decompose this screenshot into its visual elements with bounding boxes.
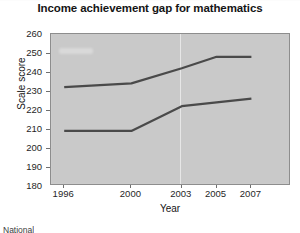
y-tick-label: 200 — [26, 143, 42, 153]
plot-area — [50, 33, 290, 185]
x-tick-mark — [250, 185, 251, 188]
x-tick-label: 2003 — [170, 188, 191, 199]
footnote-text: National — [3, 225, 34, 233]
series-lines — [51, 34, 290, 185]
chart-title: Income achievement gap for mathematics — [0, 2, 300, 14]
x-axis-labels: 19962000200320052007 — [50, 188, 290, 202]
y-tick-label: 240 — [26, 67, 42, 77]
y-tick-label: 260 — [26, 29, 42, 39]
series-line-0 — [64, 57, 251, 87]
y-tick-label: 190 — [26, 162, 42, 172]
x-tick-mark — [63, 185, 64, 188]
y-tick-label: 230 — [26, 86, 42, 96]
x-tick-mark — [216, 185, 217, 188]
y-tick-label: 220 — [26, 105, 42, 115]
x-tick-label: 2005 — [205, 188, 226, 199]
y-tick-label: 210 — [26, 124, 42, 134]
x-axis-title: Year — [50, 203, 290, 214]
x-tick-label: 2007 — [240, 188, 261, 199]
x-tick-label: 2000 — [120, 188, 141, 199]
x-tick-mark — [130, 185, 131, 188]
y-tick-label: 180 — [26, 181, 42, 191]
y-axis-labels: 260250240230220210200190180 — [0, 33, 46, 185]
y-tick-label: 250 — [26, 48, 42, 58]
series-line-1 — [64, 99, 251, 131]
chart-container: Income achievement gap for mathematics S… — [0, 0, 300, 233]
x-tick-label: 1996 — [53, 188, 74, 199]
x-tick-mark — [181, 185, 182, 188]
